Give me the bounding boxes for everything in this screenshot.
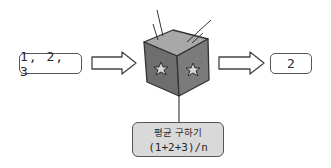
input-arrow xyxy=(92,52,136,74)
input-label: 1, 2, 3 xyxy=(20,49,81,79)
caption-formula: (1+2+3)/n xyxy=(148,140,208,155)
input-box: 1, 2, 3 xyxy=(19,53,82,74)
output-arrow xyxy=(219,52,264,74)
caption-title: 평균 구하기 xyxy=(154,125,202,140)
output-box: 2 xyxy=(270,53,312,74)
process-cube xyxy=(144,10,211,96)
output-label: 2 xyxy=(287,56,295,71)
process-caption-box: 평균 구하기 (1+2+3)/n xyxy=(132,122,224,157)
